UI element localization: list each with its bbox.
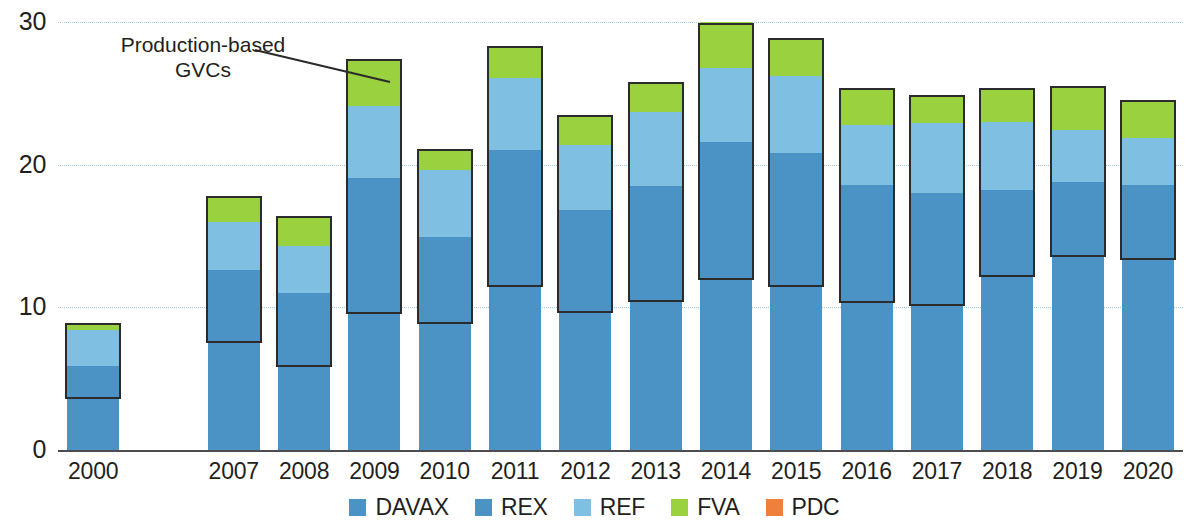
bar-2011 xyxy=(489,46,541,450)
bar-segment-fva xyxy=(67,323,119,330)
bar-segment-fva xyxy=(419,149,471,170)
legend-label: REF xyxy=(600,496,645,519)
bar-2010 xyxy=(419,149,471,450)
x-axis-tick-label-2020: 2020 xyxy=(1100,458,1189,484)
bar-segment-rex xyxy=(911,193,963,306)
bar-segment-fva xyxy=(489,46,541,77)
legend-item-pdc[interactable]: PDC xyxy=(766,496,840,519)
bar-segment-davax xyxy=(278,367,330,450)
legend-label: REX xyxy=(501,496,548,519)
bar-segment-rex xyxy=(770,153,822,287)
bar-segment-ref xyxy=(419,170,471,237)
y-axis-tick-label: 0 xyxy=(0,437,46,462)
bar-2019 xyxy=(1052,86,1104,450)
legend-swatch-icon xyxy=(574,499,591,516)
bar-2014 xyxy=(700,23,752,450)
bar-segment-fva xyxy=(1122,100,1174,137)
y-axis-tick-label: 10 xyxy=(0,294,46,319)
bar-segment-ref xyxy=(559,145,611,211)
bar-segment-fva xyxy=(278,216,330,246)
legend-item-davax[interactable]: DAVAX xyxy=(349,496,449,519)
annotation-line-2: GVCs xyxy=(88,57,318,82)
bar-segment-ref xyxy=(770,76,822,153)
bar-segment-davax xyxy=(559,313,611,450)
bar-segment-rex xyxy=(419,237,471,324)
bar-segment-davax xyxy=(1052,257,1104,450)
chart-container: 0102030 20002007200820092010201120122013… xyxy=(0,0,1189,525)
bar-segment-ref xyxy=(981,122,1033,190)
bar-segment-fva xyxy=(1052,86,1104,130)
bar-segment-davax xyxy=(981,277,1033,450)
bar-segment-rex xyxy=(489,150,541,287)
bar-segment-davax xyxy=(700,280,752,450)
bar-2012 xyxy=(559,115,611,450)
bar-segment-rex xyxy=(278,293,330,367)
bar-segment-davax xyxy=(841,303,893,450)
bar-2013 xyxy=(630,82,682,450)
bar-segment-fva xyxy=(841,88,893,125)
bar-2020 xyxy=(1122,100,1174,450)
bar-segment-fva xyxy=(559,115,611,145)
bar-segment-fva xyxy=(208,196,260,222)
bar-segment-fva xyxy=(348,59,400,106)
x-axis-line xyxy=(58,450,1183,452)
bar-segment-ref xyxy=(348,106,400,177)
bar-segment-davax xyxy=(911,306,963,450)
bar-segment-ref xyxy=(208,222,260,271)
bar-segment-fva xyxy=(770,38,822,77)
bar-segment-ref xyxy=(1122,138,1174,185)
bar-segment-fva xyxy=(700,22,752,68)
bar-segment-rex xyxy=(559,210,611,313)
legend-swatch-icon xyxy=(349,499,366,516)
x-axis-tick-label-2000: 2000 xyxy=(45,458,141,484)
legend-label: PDC xyxy=(792,496,840,519)
y-axis-tick-label: 30 xyxy=(0,9,46,34)
bar-2018 xyxy=(981,88,1033,450)
bar-2007 xyxy=(208,196,260,450)
bar-segment-ref xyxy=(67,330,119,366)
bar-2017 xyxy=(911,95,963,450)
bar-segment-rex xyxy=(630,186,682,302)
y-axis-tick-label: 20 xyxy=(0,152,46,177)
bar-segment-fva xyxy=(981,88,1033,122)
legend-item-rex[interactable]: REX xyxy=(475,496,548,519)
bar-segment-davax xyxy=(489,287,541,450)
bar-segment-rex xyxy=(1052,182,1104,258)
bar-segment-rex xyxy=(208,270,260,343)
bar-segment-ref xyxy=(630,112,682,186)
bar-2016 xyxy=(841,88,893,450)
annotation-line-1: Production-based xyxy=(88,32,318,57)
legend-item-ref[interactable]: REF xyxy=(574,496,645,519)
chart-legend: DAVAXREXREFFVAPDC xyxy=(0,496,1189,519)
bar-segment-ref xyxy=(700,68,752,142)
bar-segment-davax xyxy=(630,302,682,450)
bar-2008 xyxy=(278,216,330,450)
bar-segment-ref xyxy=(841,125,893,185)
bar-segment-rex xyxy=(348,178,400,315)
bar-segment-fva xyxy=(911,95,963,124)
legend-swatch-icon xyxy=(671,499,688,516)
bar-segment-davax xyxy=(770,287,822,450)
bar-segment-davax xyxy=(348,314,400,450)
legend-label: DAVAX xyxy=(375,496,449,519)
bar-segment-davax xyxy=(419,324,471,450)
bar-segment-rex xyxy=(1122,185,1174,261)
bar-segment-rex xyxy=(700,142,752,280)
bar-segment-rex xyxy=(981,190,1033,277)
annotation-production-based-gvcs: Production-based GVCs xyxy=(88,32,318,82)
bar-segment-rex xyxy=(67,366,119,399)
legend-swatch-icon xyxy=(766,499,783,516)
bar-segment-ref xyxy=(911,123,963,193)
bar-segment-fva xyxy=(630,82,682,112)
bar-segment-ref xyxy=(1052,130,1104,181)
legend-label: FVA xyxy=(697,496,739,519)
legend-item-fva[interactable]: FVA xyxy=(671,496,739,519)
bar-2015 xyxy=(770,38,822,450)
bar-2000 xyxy=(67,323,119,450)
bar-segment-davax xyxy=(67,399,119,450)
bar-segment-rex xyxy=(841,185,893,303)
legend-swatch-icon xyxy=(475,499,492,516)
bar-2009 xyxy=(348,59,400,450)
plot-area xyxy=(58,22,1183,450)
bar-segment-davax xyxy=(1122,260,1174,450)
